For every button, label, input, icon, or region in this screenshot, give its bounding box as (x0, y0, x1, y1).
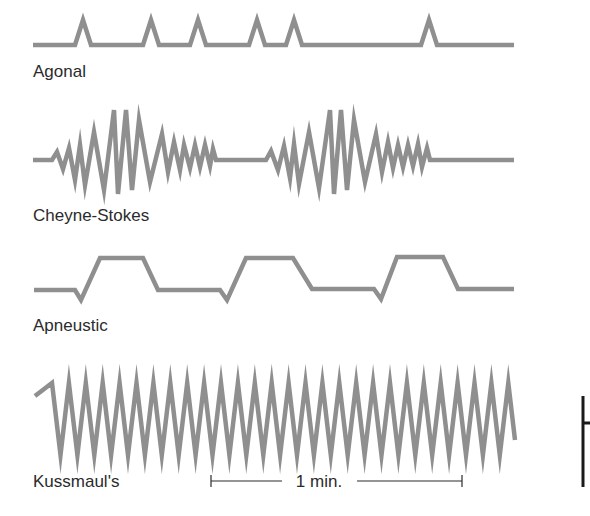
side-bar-marker (583, 396, 590, 487)
cheyne-stokes-label: Cheyne-Stokes (33, 206, 149, 225)
scale-label: 1 min. (296, 472, 342, 491)
agonal-waveform (33, 20, 514, 45)
pattern-kussmaul: Kussmaul's (33, 383, 515, 491)
pattern-cheyne-stokes: Cheyne-Stokes (33, 110, 514, 225)
pattern-agonal: Agonal (33, 20, 514, 81)
apneustic-waveform (34, 257, 514, 300)
kussmaul-label: Kussmaul's (33, 472, 119, 491)
pattern-apneustic: Apneustic (33, 257, 514, 335)
kussmaul-waveform (35, 383, 515, 455)
agonal-label: Agonal (33, 62, 86, 81)
apneustic-label: Apneustic (33, 316, 108, 335)
cheyne-stokes-waveform (33, 110, 514, 194)
respiratory-patterns-diagram: Agonal Cheyne-Stokes Apneustic Kussmaul'… (0, 0, 590, 516)
time-scale-bar: 1 min. (211, 472, 462, 491)
